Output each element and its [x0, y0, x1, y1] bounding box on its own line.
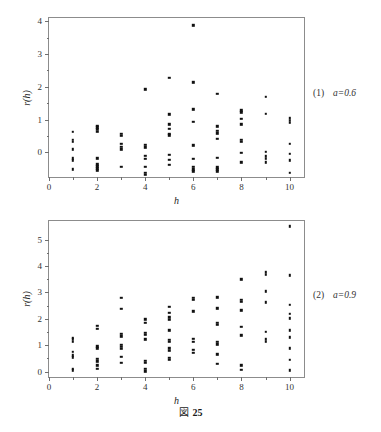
data-point	[168, 319, 170, 321]
data-point	[264, 161, 266, 163]
data-point	[216, 353, 218, 355]
data-point	[288, 347, 290, 349]
y-tick	[45, 292, 49, 293]
data-point	[216, 137, 218, 139]
data-point	[192, 108, 194, 110]
x-tick-minor	[73, 177, 74, 180]
data-point	[264, 274, 266, 276]
data-point	[264, 151, 266, 153]
data-point	[96, 360, 98, 362]
data-point	[72, 369, 74, 371]
data-point	[144, 338, 146, 340]
y-tick	[45, 120, 49, 121]
data-point	[120, 148, 122, 150]
x-tick	[290, 377, 291, 381]
y-tick-label: 4	[38, 261, 43, 271]
data-point	[264, 340, 266, 342]
data-point	[264, 301, 266, 303]
data-point	[240, 364, 242, 366]
data-point	[288, 122, 290, 124]
y-tick-minor	[47, 38, 50, 39]
y-tick-minor	[47, 136, 50, 137]
data-point	[72, 148, 74, 150]
y-tick	[45, 345, 49, 346]
data-point	[192, 348, 194, 350]
data-point	[288, 329, 290, 331]
data-point	[216, 363, 218, 365]
data-point	[288, 225, 290, 227]
data-point	[216, 296, 218, 298]
data-point	[144, 333, 146, 335]
data-point	[120, 135, 122, 137]
data-point	[192, 120, 194, 122]
x-tick	[241, 377, 242, 381]
y-tick	[45, 87, 49, 88]
y-tick-minor	[47, 306, 50, 307]
figure-caption: 図25	[0, 404, 381, 419]
data-point	[216, 156, 218, 158]
data-point	[72, 350, 74, 352]
data-point	[72, 141, 74, 143]
data-point	[120, 362, 122, 364]
y-tick	[45, 240, 49, 241]
x-tick-label: 2	[95, 382, 100, 392]
data-point	[120, 166, 122, 168]
data-point	[144, 370, 146, 372]
y-tick	[45, 21, 49, 22]
data-point	[168, 329, 170, 331]
data-point	[216, 93, 218, 95]
x-tick-minor	[121, 177, 122, 180]
data-point	[168, 128, 170, 130]
panel-index-2: (2)	[313, 290, 324, 300]
x-tick-minor	[217, 377, 218, 380]
data-point	[72, 356, 74, 358]
x-tick-label: 2	[95, 182, 100, 192]
y-tick	[45, 372, 49, 373]
data-point	[96, 367, 98, 369]
data-point	[168, 341, 170, 343]
data-point	[240, 309, 242, 311]
figure-25: 012340246810 r(h) h (1)a=0.6 01234502468…	[0, 0, 381, 432]
panel-param-2: a=0.9	[333, 290, 356, 300]
data-point	[96, 131, 98, 133]
data-point	[216, 125, 218, 127]
y-tick-label: 2	[38, 314, 43, 324]
data-point	[144, 88, 146, 90]
data-point	[288, 336, 290, 338]
data-point	[168, 76, 170, 78]
data-point	[72, 159, 74, 161]
x-tick	[97, 177, 98, 181]
panel-2: 0123450246810 r(h) h (2)a=0.9	[0, 212, 381, 407]
data-point	[96, 364, 98, 366]
data-point	[288, 159, 290, 161]
scatter-plot-area-2: 0123450246810	[49, 221, 304, 377]
data-point	[168, 164, 170, 166]
x-axis-label-1: h	[174, 195, 179, 206]
x-tick	[145, 377, 146, 381]
data-point	[192, 158, 194, 160]
data-point	[96, 347, 98, 349]
y-tick-minor	[47, 70, 50, 71]
data-point	[120, 296, 122, 298]
data-point	[168, 305, 170, 307]
data-point	[192, 340, 194, 342]
data-point	[240, 123, 242, 125]
x-tick-minor	[169, 177, 170, 180]
data-point	[168, 134, 170, 136]
y-tick-minor	[47, 332, 50, 333]
x-tick-minor	[121, 377, 122, 380]
scatter-plot-area-1: 012340246810	[49, 18, 304, 177]
y-tick-label: 4	[38, 16, 43, 26]
data-point	[120, 308, 122, 310]
y-tick-minor	[47, 253, 50, 254]
data-point	[216, 170, 218, 172]
x-tick-label: 4	[143, 182, 148, 192]
data-point	[240, 152, 242, 154]
data-point	[192, 24, 194, 26]
data-point	[240, 111, 242, 113]
x-tick-label: 10	[285, 382, 294, 392]
x-tick-label: 6	[191, 382, 196, 392]
x-tick	[241, 177, 242, 181]
x-tick	[97, 377, 98, 381]
data-point	[168, 312, 170, 314]
